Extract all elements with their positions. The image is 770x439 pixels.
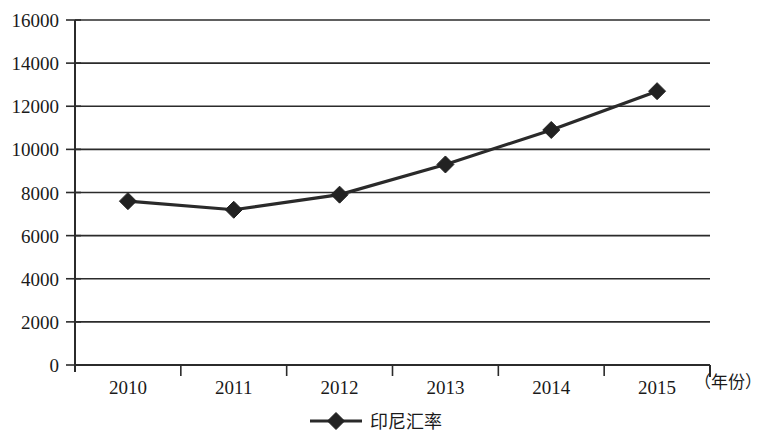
x-axis-tick-label-2010: 2010 — [109, 377, 147, 398]
y-axis-tick-label: 12000 — [12, 96, 60, 117]
x-axis-tick-label-2014: 2014 — [532, 377, 571, 398]
x-axis-tick-label-2011: 2011 — [215, 377, 252, 398]
y-axis-tick-label: 16000 — [12, 10, 60, 31]
y-axis-tick-label: 6000 — [21, 226, 59, 247]
y-axis-tick-label: 10000 — [12, 139, 60, 160]
x-axis-tick-label-2013: 2013 — [426, 377, 464, 398]
line-chart: 0200040006000800010000120001400016000 20… — [0, 0, 770, 439]
y-axis-tick-label: 8000 — [21, 183, 59, 204]
x-axis-tick-label-2015: 2015 — [638, 377, 676, 398]
y-axis-tick-label: 4000 — [21, 269, 59, 290]
y-axis-tick-label: 2000 — [21, 312, 59, 333]
x-axis-unit-label: （年份） — [694, 373, 762, 392]
chart-svg: 0200040006000800010000120001400016000 20… — [0, 0, 770, 439]
legend-label-indonesia-exchange-rate: 印尼汇率 — [370, 412, 442, 432]
x-axis-tick-label-2012: 2012 — [321, 377, 359, 398]
y-axis-tick-label: 0 — [50, 355, 60, 376]
chart-background — [0, 0, 770, 439]
y-axis-tick-label: 14000 — [12, 53, 60, 74]
